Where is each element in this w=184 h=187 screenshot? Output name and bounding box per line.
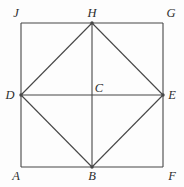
point-label-G: G (166, 6, 175, 20)
point-label-E: E (167, 88, 176, 102)
point-label-J: J (13, 6, 20, 20)
vertex-dot-D (19, 93, 22, 96)
vertex-dot-H (90, 21, 93, 24)
vertex-dot-E (161, 93, 164, 96)
point-label-A: A (11, 169, 20, 183)
segment-D-H (21, 23, 92, 95)
point-label-H: H (86, 6, 97, 20)
geometry-figure: JHGDCEABF (0, 0, 184, 187)
point-label-C: C (95, 81, 104, 95)
point-label-B: B (88, 169, 96, 183)
segment-E-B (92, 95, 163, 167)
point-label-D: D (4, 88, 14, 102)
figure-canvas: JHGDCEABF (0, 0, 184, 187)
segments-group (21, 23, 163, 167)
segment-B-D (21, 95, 92, 167)
point-label-F: F (167, 169, 176, 183)
